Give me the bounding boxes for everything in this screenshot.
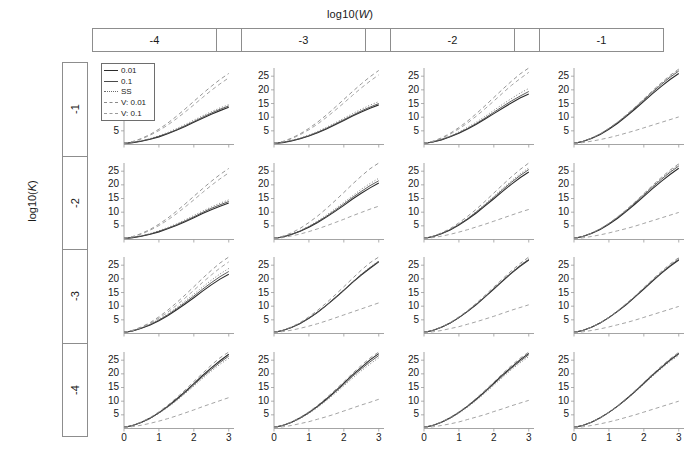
y-tick-label: 10	[408, 396, 419, 406]
legend-key-dotted-icon	[104, 91, 118, 93]
panel-r1-c2: 510152025	[392, 157, 542, 252]
legend-label: V: 0.1	[121, 110, 142, 118]
y-tick-label: 25	[408, 166, 419, 176]
legend-key-solid-icon	[104, 70, 118, 72]
curve-v-0-1	[574, 306, 679, 332]
curve-v-0-01	[424, 163, 529, 238]
curve-v-0-01	[424, 352, 529, 427]
panel-r2-c0: 510152025	[92, 251, 242, 346]
panel-r2-c3: 510152025	[542, 251, 692, 346]
y-tick-label: 25	[258, 260, 269, 270]
curve-ss	[574, 258, 679, 332]
row-header-label: -3	[69, 291, 81, 301]
curve-0-01	[424, 172, 529, 238]
curve-v-0-01	[274, 352, 379, 427]
curve-0-1	[574, 166, 679, 238]
x-tick-label: 1	[302, 433, 316, 443]
y-tick-label: 20	[558, 85, 569, 95]
curve-v-0-01	[124, 168, 229, 238]
y-tick-label: 20	[258, 274, 269, 284]
y-tick-label: 15	[558, 99, 569, 109]
curve-0-01	[274, 182, 379, 237]
y-tick-label: 20	[258, 179, 269, 189]
y-tick-label: 20	[258, 85, 269, 95]
y-tick-label: 10	[558, 207, 569, 217]
x-tick-label: 0	[567, 433, 581, 443]
curve-ss	[124, 268, 229, 332]
panel-r3-c0: 5101520250123	[92, 346, 242, 441]
row-header-0: -1	[62, 62, 88, 157]
panel-r0-c1: 510152025	[242, 62, 392, 157]
curve-ss	[424, 167, 529, 237]
row-header-label: -4	[69, 385, 81, 395]
y-tick-label: 5	[263, 409, 269, 419]
curve-v-0-01	[274, 70, 379, 143]
y-tick-label: 15	[408, 382, 419, 392]
curve-v-0-1	[574, 401, 679, 428]
legend-label: SS	[121, 88, 132, 96]
y-tick-label: 25	[108, 260, 119, 270]
curve-v-0-01	[274, 257, 379, 332]
column-header-1: -3	[241, 28, 366, 52]
curve-v-0-1	[424, 400, 529, 427]
panel-grid: 5101520255101520255101520255101520255101…	[92, 62, 692, 440]
row-header-1: -2	[62, 156, 88, 251]
x-tick-label: 2	[487, 433, 501, 443]
curve-ss	[574, 164, 679, 238]
y-tick-label: 15	[558, 193, 569, 203]
x-tick-label: 1	[152, 433, 166, 443]
y-tick-label: 5	[113, 409, 119, 419]
panel-r3-c2: 5101520250123	[392, 346, 542, 441]
curve-v-0-01	[274, 163, 379, 238]
x-tick-label: 1	[602, 433, 616, 443]
curve-0-01	[274, 105, 379, 144]
x-tick-label: 3	[372, 433, 386, 443]
x-tick-label: 3	[672, 433, 686, 443]
y-tick-label: 10	[408, 207, 419, 217]
row-header-3: -4	[62, 343, 88, 438]
curve-0-01	[574, 353, 679, 427]
x-tick-label: 2	[637, 433, 651, 443]
curve-0-01	[274, 353, 379, 427]
y-tick-label: 25	[558, 260, 569, 270]
y-tick-label: 25	[558, 71, 569, 81]
y-tick-label: 20	[408, 85, 419, 95]
curve-ss	[274, 261, 379, 333]
y-tick-label: 25	[258, 166, 269, 176]
legend-item-2: SS	[104, 87, 154, 98]
y-tick-label: 10	[258, 396, 269, 406]
legend-key-solid-icon	[104, 81, 118, 83]
y-tick-label: 10	[408, 112, 419, 122]
panel-r2-c1: 510152025	[242, 251, 392, 346]
y-tick-label: 20	[408, 179, 419, 189]
y-tick-label: 25	[108, 355, 119, 365]
legend-label: 0.1	[121, 78, 132, 86]
y-tick-label: 15	[258, 99, 269, 109]
legend-item-0: 0.01	[104, 66, 154, 77]
curve-0-1	[274, 261, 379, 332]
y-tick-label: 10	[408, 301, 419, 311]
column-header-2: -2	[390, 28, 515, 52]
column-header-gap-0	[216, 28, 242, 52]
curve-v-0-1	[424, 72, 529, 143]
curve-0-1	[124, 201, 229, 238]
legend-label: V: 0.01	[121, 99, 146, 107]
curve-0-1	[574, 259, 679, 332]
y-tick-label: 20	[108, 368, 119, 378]
row-header-2: -3	[62, 249, 88, 344]
y-tick-label: 5	[413, 315, 419, 325]
column-header-gap-2	[514, 28, 540, 52]
panel-r0-c3: 510152025	[542, 62, 692, 157]
y-tick-label: 5	[113, 315, 119, 325]
y-tick-label: 5	[563, 220, 569, 230]
curve-v-0-01	[574, 69, 679, 143]
panel-r1-c1: 510152025	[242, 157, 392, 252]
curve-v-0-01	[424, 257, 529, 332]
y-tick-label: 5	[113, 220, 119, 230]
y-tick-label: 10	[558, 396, 569, 406]
curve-0-1	[424, 259, 529, 332]
y-tick-label: 10	[558, 112, 569, 122]
x-tick-label: 3	[522, 433, 536, 443]
y-tick-label: 25	[558, 166, 569, 176]
legend-label: 0.01	[121, 67, 137, 75]
